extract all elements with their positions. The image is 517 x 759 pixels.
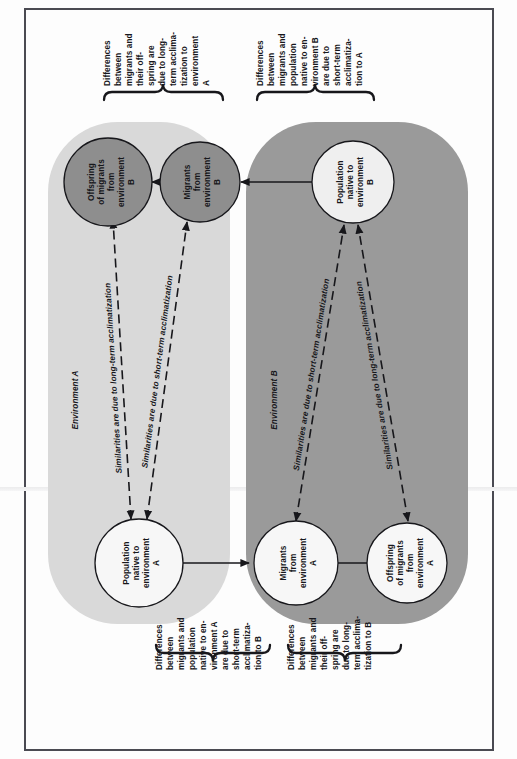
brace-bottom-left-text: Differences between migrants and populat… <box>155 617 263 670</box>
node-label-line: from <box>193 173 202 192</box>
node-label-line: from <box>289 554 298 573</box>
node-label-line: Migrants <box>279 545 288 580</box>
node-label-line: from <box>406 554 415 573</box>
node-label-line: environment <box>416 538 425 588</box>
brace-line: their off- <box>320 636 329 670</box>
brace-line: between <box>114 53 123 86</box>
node-label-line: Migrants <box>183 164 192 199</box>
brace-line: term acclima- <box>353 616 362 670</box>
brace-line: population <box>188 627 197 670</box>
node-label-line: Population <box>336 160 345 203</box>
node-label-line: B <box>127 179 136 185</box>
brace-line: migrants and <box>309 617 318 670</box>
node-label-line: environment <box>299 538 308 588</box>
node-label-line: of migrants <box>396 540 405 586</box>
brace-line: due to long- <box>342 622 351 670</box>
brace-top-left-text: Differences between migrants and their o… <box>103 32 211 86</box>
node-label-line: Offspring <box>87 163 96 201</box>
brace-line: spring are <box>331 629 340 670</box>
brace-line: spring are <box>147 45 156 86</box>
brace-line: acclimatiza- <box>344 38 353 86</box>
node-label-line: A <box>309 560 318 566</box>
node-label-line: native to <box>132 546 141 581</box>
brace-line: vironment B <box>311 37 320 86</box>
env-b-label: Environment B <box>270 370 279 430</box>
brace-line: short-term <box>333 44 342 86</box>
brace-line: migrants and <box>177 617 186 670</box>
brace-line: acclimatiza- <box>243 622 252 670</box>
brace-line: Differences <box>103 40 112 86</box>
brace-line: between <box>166 637 175 670</box>
brace-line: native to en- <box>199 620 208 670</box>
node-label-line: B <box>366 179 375 185</box>
brace-line: population <box>289 43 298 86</box>
node-offspring-migrants-a[interactable]: Offspring of migrants from environment A <box>367 523 447 603</box>
node-label-line: environment <box>356 157 365 207</box>
brace-line: Differences <box>287 624 296 670</box>
brace-line: between <box>298 637 307 670</box>
node-label-line: A <box>426 560 435 566</box>
brace-line: between <box>267 53 276 86</box>
brace-line: migrants and <box>125 33 134 86</box>
node-migrants-b[interactable]: Migrants from environment B <box>160 142 240 222</box>
node-label-line: B <box>213 179 222 185</box>
env-a-label: Environment A <box>71 370 80 429</box>
brace-line: tion to B <box>254 636 263 670</box>
node-population-native-b[interactable]: Population native to environment B <box>312 141 394 223</box>
node-offspring-migrants-b[interactable]: Offspring of migrants from environment B <box>64 138 152 226</box>
brace-line: term acclima- <box>169 32 178 86</box>
brace-line: Differences <box>256 40 265 86</box>
node-label-line: native to <box>346 165 355 200</box>
brace-line: migrants and <box>278 33 287 86</box>
node-label-line: environment <box>203 157 212 207</box>
brace-line: tization to B <box>364 622 373 670</box>
brace-line: are due to <box>221 630 230 670</box>
node-label-line: environment <box>142 538 151 588</box>
brace-line: native to en- <box>300 36 309 86</box>
node-label-line: Population <box>122 541 131 584</box>
brace-line: due to long- <box>158 38 167 86</box>
node-label-line: Offspring <box>386 544 395 582</box>
figure-page: Environment A Environment B Simi <box>0 0 517 759</box>
brace-line: their off- <box>136 52 145 86</box>
brace-line: short-term <box>232 628 241 670</box>
brace-line: environment <box>191 36 200 86</box>
brace-line: are due to <box>322 46 331 86</box>
brace-line: tization to <box>180 46 189 86</box>
brace-line: tion to A <box>355 52 364 86</box>
node-migrants-a[interactable]: Migrants from environment A <box>254 521 338 605</box>
node-label-line: of migrants <box>97 159 106 205</box>
brace-line: vironment A <box>210 621 219 670</box>
brace-line: A <box>202 80 211 86</box>
node-label-line: from <box>107 173 116 192</box>
brace-line: Differences <box>155 624 164 670</box>
node-population-native-a[interactable]: Population native to environment A <box>95 519 183 607</box>
node-label-line: A <box>152 560 161 566</box>
node-label-line: environment <box>117 157 126 207</box>
diagram-canvas: Environment A Environment B Simi <box>0 0 517 759</box>
brace-top-right-text: Differences between migrants and populat… <box>256 33 364 86</box>
